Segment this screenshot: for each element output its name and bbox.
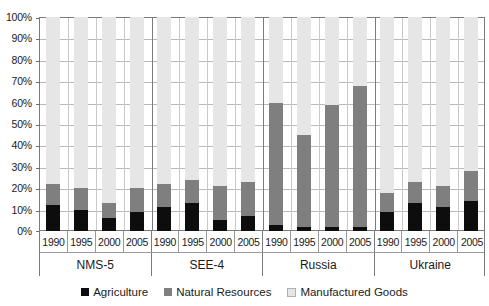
bar-segment-natural-resources xyxy=(74,188,88,209)
bar-segment-natural-resources xyxy=(297,135,311,227)
legend-item: Natural Resources xyxy=(164,286,271,298)
bar xyxy=(297,17,311,231)
bar-segment-natural-resources xyxy=(185,180,199,204)
bar-segment-natural-resources xyxy=(464,171,478,201)
bar-segment-agriculture xyxy=(436,207,450,231)
bar-segment-manufactured-goods xyxy=(436,17,450,186)
bar-segment-manufactured-goods xyxy=(213,17,227,186)
stacked-bar-chart: 0%10%20%30%40%50%60%70%80%90%100% 199019… xyxy=(0,0,489,306)
bar-segment-manufactured-goods xyxy=(130,17,144,188)
bar-segment-natural-resources xyxy=(436,186,450,207)
x-axis-year-label: 2005 xyxy=(458,231,486,252)
bar-segment-natural-resources xyxy=(130,188,144,212)
bar-segment-manufactured-goods xyxy=(46,17,60,184)
bar xyxy=(74,17,88,231)
bar-segment-manufactured-goods xyxy=(353,17,367,85)
black-square-icon xyxy=(81,288,89,296)
legend-item-label: Natural Resources xyxy=(176,286,271,298)
y-axis-tick-label: 0% xyxy=(17,226,32,236)
x-axis-year-label: 2005 xyxy=(347,231,375,252)
y-axis-tick-label: 70% xyxy=(12,76,32,86)
bar xyxy=(213,17,227,231)
x-axis-year-label: 1995 xyxy=(291,231,319,252)
bar-segment-manufactured-goods xyxy=(74,17,88,188)
bar-segment-natural-resources xyxy=(157,184,171,208)
bar xyxy=(157,17,171,231)
x-axis-group-label-russia: Russia xyxy=(263,253,375,276)
bar xyxy=(353,17,367,231)
x-axis-group-label-nms-5: NMS-5 xyxy=(40,253,152,276)
bars-layer xyxy=(39,17,485,231)
y-axis-tick-label: 80% xyxy=(12,55,32,65)
bar-segment-manufactured-goods xyxy=(185,17,199,180)
bar-segment-agriculture xyxy=(74,210,88,231)
x-axis-year-row: 1990199520002005199019952000200519901995… xyxy=(40,231,484,253)
x-axis-year-label: 2005 xyxy=(235,231,263,252)
bar-segment-manufactured-goods xyxy=(241,17,255,182)
bar-segment-manufactured-goods xyxy=(464,17,478,171)
bar xyxy=(408,17,422,231)
bar-segment-agriculture xyxy=(46,205,60,231)
bar-segment-agriculture xyxy=(185,203,199,231)
light-gray-square-icon xyxy=(287,288,296,297)
x-axis-group-label-ukraine: Ukraine xyxy=(375,253,487,276)
x-axis-year-label: 2000 xyxy=(319,231,347,252)
y-axis-tick-label: 100% xyxy=(6,12,32,22)
x-axis-group-label-see-4: SEE-4 xyxy=(152,253,264,276)
gray-square-icon xyxy=(164,288,172,296)
bar-segment-natural-resources xyxy=(380,193,394,212)
x-axis-group-row: NMS-5SEE-4RussiaUkraine xyxy=(40,253,484,276)
x-axis: 1990199520002005199019952000200519901995… xyxy=(39,231,485,276)
bar-segment-manufactured-goods xyxy=(380,17,394,192)
bar-segment-agriculture xyxy=(213,220,227,231)
bar xyxy=(185,17,199,231)
x-axis-year-label: 1995 xyxy=(179,231,207,252)
bar xyxy=(46,17,60,231)
legend-item-label: Manufactured Goods xyxy=(300,286,407,298)
x-axis-year-label: 1990 xyxy=(375,231,403,252)
bar-segment-natural-resources xyxy=(408,182,422,203)
x-axis-year-label: 2000 xyxy=(207,231,235,252)
bar-segment-natural-resources xyxy=(325,105,339,227)
bar-segment-agriculture xyxy=(408,203,422,231)
bar xyxy=(464,17,478,231)
legend-item: Manufactured Goods xyxy=(287,286,407,298)
y-axis-tick-label: 20% xyxy=(12,183,32,193)
bar-segment-agriculture xyxy=(102,218,116,231)
bar-segment-manufactured-goods xyxy=(157,17,171,184)
x-axis-year-label: 1990 xyxy=(40,231,68,252)
bar-segment-manufactured-goods xyxy=(269,17,283,103)
legend-item-label: Agriculture xyxy=(93,286,148,298)
y-axis-tick-label: 50% xyxy=(12,119,32,129)
bar-segment-natural-resources xyxy=(46,184,60,205)
bar-segment-natural-resources xyxy=(213,186,227,220)
bar xyxy=(325,17,339,231)
bar xyxy=(102,17,116,231)
bar xyxy=(380,17,394,231)
x-axis-year-label: 2000 xyxy=(430,231,458,252)
y-axis: 0%10%20%30%40%50%60%70%80%90%100% xyxy=(0,10,36,238)
bar-segment-agriculture xyxy=(157,207,171,231)
y-axis-tick-label: 40% xyxy=(12,140,32,150)
x-axis-year-label: 1990 xyxy=(263,231,291,252)
bar-segment-manufactured-goods xyxy=(325,17,339,105)
x-axis-year-label: 1995 xyxy=(68,231,96,252)
bar xyxy=(130,17,144,231)
y-axis-tick-label: 10% xyxy=(12,205,32,215)
x-axis-year-label: 2000 xyxy=(96,231,124,252)
x-axis-year-label: 2005 xyxy=(124,231,152,252)
x-axis-year-label: 1990 xyxy=(152,231,180,252)
bar-segment-agriculture xyxy=(241,216,255,231)
bar-segment-natural-resources xyxy=(269,103,283,225)
bar-segment-agriculture xyxy=(130,212,144,231)
bar-segment-manufactured-goods xyxy=(102,17,116,203)
x-axis-year-label: 1995 xyxy=(402,231,430,252)
y-axis-tick-label: 30% xyxy=(12,162,32,172)
bar-segment-agriculture xyxy=(380,212,394,231)
bar-segment-agriculture xyxy=(464,201,478,231)
bar xyxy=(436,17,450,231)
bar-segment-natural-resources xyxy=(241,182,255,216)
y-axis-tick-label: 60% xyxy=(12,98,32,108)
bar xyxy=(241,17,255,231)
bar-segment-natural-resources xyxy=(353,86,367,227)
